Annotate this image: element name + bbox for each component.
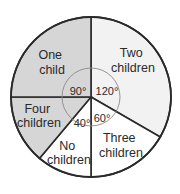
label-three-children: Three children: [99, 131, 143, 160]
angle-label-two-children: 120°: [96, 85, 119, 97]
angle-label-no-children: 40°: [74, 117, 91, 129]
angle-label-three-children: 60°: [94, 112, 111, 124]
angle-label-one-child: 90°: [70, 85, 87, 97]
label-one-child: One child: [38, 48, 65, 77]
pie-chart: Two children Three children No children …: [0, 0, 180, 194]
